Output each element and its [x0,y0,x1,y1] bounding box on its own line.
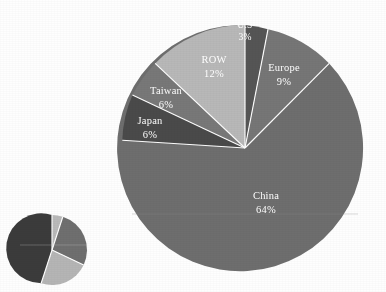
label-taiwan-value: 6% [159,99,173,110]
label-japan-value: 6% [143,129,157,140]
main-pie-svg: U.S 3% Europe 9% China 64% Japan 6% Taiw… [0,0,386,292]
label-us-name: U.S [237,19,252,30]
label-japan-name: Japan [138,115,163,126]
label-europe-name: Europe [268,62,300,73]
label-row-value: 12% [204,68,224,79]
label-us-value: 3% [238,31,251,42]
label-row-name: ROW [201,54,226,65]
label-taiwan-name: Taiwan [150,85,183,96]
main-pie-chart: U.S 3% Europe 9% China 64% Japan 6% Taiw… [0,0,386,292]
label-china-value: 64% [256,204,276,215]
label-europe-value: 9% [277,76,291,87]
thumbnail-pie-chart [6,213,87,285]
label-china-name: China [253,190,279,201]
chart-page: U.S 3% Europe 9% China 64% Japan 6% Taiw… [0,0,386,292]
